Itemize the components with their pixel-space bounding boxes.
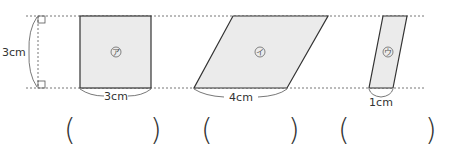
height-label: 3cm: [2, 46, 26, 59]
right-angle-top-icon: [38, 16, 45, 23]
answer-2-close-paren: ): [288, 112, 300, 147]
answer-3-open-paren: (: [338, 112, 350, 147]
geometry-figure: 3cm ア 3cm イ 4cm ウ 1cm ( ) ( ) ( ): [0, 0, 450, 155]
strip-base-label: 1cm: [369, 96, 393, 109]
height-brace: [29, 17, 37, 87]
square-base-label: 3cm: [104, 90, 128, 103]
square-mark: ア: [112, 48, 120, 57]
right-angle-bottom-icon: [38, 81, 45, 88]
strip-mark: ウ: [384, 48, 392, 57]
answer-2-open-paren: (: [201, 112, 213, 147]
answer-3-close-paren: ): [425, 112, 437, 147]
answer-1-open-paren: (: [64, 112, 76, 147]
answer-1-close-paren: ): [150, 112, 162, 147]
parallelogram-mark: イ: [256, 48, 264, 57]
parallelogram-base-label: 4cm: [229, 91, 253, 104]
